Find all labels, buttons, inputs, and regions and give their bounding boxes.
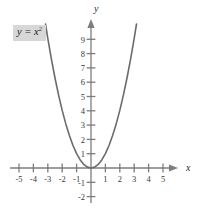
y-axis-label: y (94, 4, 98, 14)
xtick-label: 2 (115, 175, 125, 184)
ytick-label: 4 (74, 107, 85, 116)
ytick-label: 7 (74, 64, 85, 73)
ytick-label: 5 (74, 93, 85, 102)
equation-base: y = x (17, 26, 39, 37)
xtick-label: 5 (158, 175, 168, 184)
y-axis (87, 19, 96, 203)
x-axis-label: x (186, 163, 190, 173)
parabola-figure: -5 -4 -3 -2 -1 1 2 3 4 5 9 8 7 6 5 4 3 2… (0, 0, 201, 218)
ytick-label: -1 (72, 179, 85, 188)
xtick-label: 3 (129, 175, 139, 184)
xtick-label: -5 (13, 175, 25, 184)
xtick-label: -4 (27, 175, 39, 184)
equation-label: y = x2 (13, 25, 46, 41)
ytick-label: 6 (74, 78, 85, 87)
ytick-label: 9 (74, 36, 85, 45)
ytick-label: 3 (74, 121, 85, 130)
equation-exponent: 2 (39, 25, 42, 32)
ytick-label: 2 (74, 136, 85, 145)
ytick-label: -2 (72, 193, 85, 202)
xtick-label: 4 (144, 175, 154, 184)
ytick-label: 1 (74, 150, 85, 159)
xtick-label: 1 (100, 175, 110, 184)
xtick-label: -2 (56, 175, 68, 184)
xtick-label: -3 (42, 175, 54, 184)
ytick-label: 8 (74, 50, 85, 59)
